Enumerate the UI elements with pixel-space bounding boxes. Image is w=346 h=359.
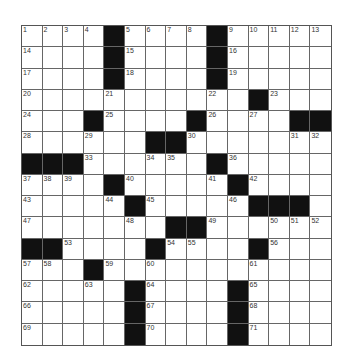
grid-cell[interactable] bbox=[43, 111, 64, 132]
grid-cell[interactable] bbox=[43, 217, 64, 238]
grid-cell[interactable] bbox=[63, 90, 84, 111]
grid-cell[interactable] bbox=[166, 90, 187, 111]
grid-cell[interactable] bbox=[187, 69, 208, 90]
grid-cell[interactable] bbox=[146, 69, 167, 90]
grid-cell[interactable]: 32 bbox=[310, 132, 331, 153]
grid-cell[interactable]: 16 bbox=[228, 47, 249, 68]
grid-cell[interactable] bbox=[104, 217, 125, 238]
grid-cell[interactable] bbox=[146, 175, 167, 196]
grid-cell[interactable] bbox=[125, 239, 146, 260]
grid-cell[interactable] bbox=[187, 90, 208, 111]
grid-cell[interactable] bbox=[146, 111, 167, 132]
grid-cell[interactable] bbox=[310, 90, 331, 111]
grid-cell[interactable] bbox=[310, 239, 331, 260]
grid-cell[interactable]: 70 bbox=[146, 324, 167, 345]
grid-cell[interactable] bbox=[84, 69, 105, 90]
grid-cell[interactable] bbox=[249, 132, 270, 153]
grid-cell[interactable]: 11 bbox=[269, 26, 290, 47]
grid-cell[interactable] bbox=[249, 217, 270, 238]
grid-cell[interactable] bbox=[269, 281, 290, 302]
grid-cell[interactable] bbox=[146, 47, 167, 68]
grid-cell[interactable] bbox=[228, 239, 249, 260]
grid-cell[interactable] bbox=[104, 239, 125, 260]
grid-cell[interactable]: 9 bbox=[228, 26, 249, 47]
grid-cell[interactable] bbox=[104, 302, 125, 323]
grid-cell[interactable] bbox=[228, 111, 249, 132]
grid-cell[interactable] bbox=[207, 324, 228, 345]
grid-cell[interactable]: 63 bbox=[84, 281, 105, 302]
grid-cell[interactable]: 14 bbox=[22, 47, 43, 68]
grid-cell[interactable] bbox=[166, 175, 187, 196]
grid-cell[interactable] bbox=[146, 217, 167, 238]
grid-cell[interactable] bbox=[84, 302, 105, 323]
grid-cell[interactable]: 36 bbox=[228, 154, 249, 175]
grid-cell[interactable] bbox=[310, 154, 331, 175]
grid-cell[interactable]: 67 bbox=[146, 302, 167, 323]
grid-cell[interactable] bbox=[290, 90, 311, 111]
grid-cell[interactable]: 65 bbox=[249, 281, 270, 302]
grid-cell[interactable] bbox=[125, 154, 146, 175]
grid-cell[interactable]: 52 bbox=[310, 217, 331, 238]
grid-cell[interactable] bbox=[84, 239, 105, 260]
grid-cell[interactable] bbox=[43, 90, 64, 111]
grid-cell[interactable]: 21 bbox=[104, 90, 125, 111]
grid-cell[interactable] bbox=[63, 196, 84, 217]
grid-cell[interactable] bbox=[310, 302, 331, 323]
grid-cell[interactable]: 48 bbox=[125, 217, 146, 238]
grid-cell[interactable]: 54 bbox=[166, 239, 187, 260]
grid-cell[interactable]: 18 bbox=[125, 69, 146, 90]
grid-cell[interactable] bbox=[228, 260, 249, 281]
grid-cell[interactable] bbox=[125, 132, 146, 153]
grid-cell[interactable] bbox=[228, 132, 249, 153]
grid-cell[interactable]: 40 bbox=[125, 175, 146, 196]
grid-cell[interactable] bbox=[84, 217, 105, 238]
grid-cell[interactable]: 49 bbox=[207, 217, 228, 238]
grid-cell[interactable] bbox=[63, 324, 84, 345]
grid-cell[interactable] bbox=[207, 132, 228, 153]
grid-cell[interactable] bbox=[290, 260, 311, 281]
grid-cell[interactable] bbox=[187, 196, 208, 217]
grid-cell[interactable]: 7 bbox=[166, 26, 187, 47]
grid-cell[interactable] bbox=[84, 196, 105, 217]
grid-cell[interactable]: 50 bbox=[269, 217, 290, 238]
grid-cell[interactable]: 45 bbox=[146, 196, 167, 217]
grid-cell[interactable]: 57 bbox=[22, 260, 43, 281]
grid-cell[interactable]: 17 bbox=[22, 69, 43, 90]
grid-cell[interactable] bbox=[269, 154, 290, 175]
grid-cell[interactable] bbox=[166, 196, 187, 217]
grid-cell[interactable]: 19 bbox=[228, 69, 249, 90]
grid-cell[interactable] bbox=[310, 260, 331, 281]
grid-cell[interactable]: 3 bbox=[63, 26, 84, 47]
grid-cell[interactable] bbox=[166, 69, 187, 90]
grid-cell[interactable] bbox=[269, 132, 290, 153]
grid-cell[interactable] bbox=[43, 196, 64, 217]
grid-cell[interactable] bbox=[310, 281, 331, 302]
grid-cell[interactable] bbox=[290, 324, 311, 345]
grid-cell[interactable]: 4 bbox=[84, 26, 105, 47]
grid-cell[interactable]: 37 bbox=[22, 175, 43, 196]
grid-cell[interactable] bbox=[269, 324, 290, 345]
grid-cell[interactable]: 46 bbox=[228, 196, 249, 217]
grid-cell[interactable] bbox=[187, 154, 208, 175]
grid-cell[interactable] bbox=[290, 302, 311, 323]
grid-cell[interactable] bbox=[84, 324, 105, 345]
grid-cell[interactable] bbox=[228, 90, 249, 111]
grid-cell[interactable] bbox=[166, 47, 187, 68]
grid-cell[interactable] bbox=[166, 324, 187, 345]
grid-cell[interactable]: 44 bbox=[104, 196, 125, 217]
grid-cell[interactable] bbox=[125, 111, 146, 132]
grid-cell[interactable]: 64 bbox=[146, 281, 167, 302]
grid-cell[interactable] bbox=[290, 154, 311, 175]
grid-cell[interactable] bbox=[187, 175, 208, 196]
grid-cell[interactable] bbox=[269, 302, 290, 323]
grid-cell[interactable] bbox=[84, 175, 105, 196]
grid-cell[interactable]: 6 bbox=[146, 26, 167, 47]
grid-cell[interactable] bbox=[43, 69, 64, 90]
grid-cell[interactable] bbox=[290, 47, 311, 68]
grid-cell[interactable] bbox=[187, 281, 208, 302]
grid-cell[interactable]: 15 bbox=[125, 47, 146, 68]
grid-cell[interactable] bbox=[43, 302, 64, 323]
grid-cell[interactable]: 31 bbox=[290, 132, 311, 153]
grid-cell[interactable] bbox=[146, 90, 167, 111]
grid-cell[interactable] bbox=[43, 281, 64, 302]
